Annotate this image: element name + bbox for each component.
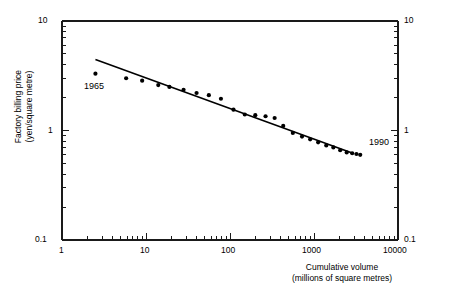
- data-point: [167, 85, 171, 89]
- y-tick-label-1: 1: [48, 125, 53, 135]
- annotation-1965: 1965: [84, 81, 104, 91]
- y-right-tick-label-0.1: 0.1: [404, 234, 416, 244]
- y-tick-label-0.1: 0.1: [35, 234, 47, 244]
- x-axis-ticks: [62, 233, 398, 240]
- data-point: [231, 108, 235, 112]
- data-point: [350, 151, 354, 155]
- data-point: [243, 112, 247, 116]
- chart-plot-area: [0, 0, 464, 305]
- axis-lines: [62, 21, 398, 240]
- x-tick-label-10000: 10000: [383, 245, 407, 255]
- data-point: [263, 114, 267, 118]
- data-point: [308, 137, 312, 141]
- data-point: [253, 113, 257, 117]
- x-tick-label-10: 10: [140, 245, 149, 255]
- data-point: [316, 140, 320, 144]
- data-point: [273, 116, 277, 120]
- data-point: [291, 131, 295, 135]
- x-axis-title-text: Cumulative volume (millions of square me…: [292, 262, 392, 283]
- data-point: [345, 150, 349, 154]
- x-tick-label-100: 100: [221, 245, 235, 255]
- data-point: [194, 91, 198, 95]
- data-point: [181, 88, 185, 92]
- data-point: [324, 143, 328, 147]
- y-axis-left-ticks: [62, 21, 69, 240]
- trendline: [95, 60, 352, 154]
- data-point: [338, 148, 342, 152]
- experience-curve-chart: 10 1 0.1 10 1 0.1 1 10 100 1000 10000 19…: [0, 0, 464, 305]
- data-point: [156, 83, 160, 87]
- y-right-tick-label-1: 1: [404, 125, 409, 135]
- data-point: [281, 124, 285, 128]
- data-point: [140, 79, 144, 83]
- y-right-tick-label-10: 10: [404, 15, 413, 25]
- y-axis-title: Factory billing price (yen/square metre): [13, 57, 34, 157]
- data-point: [93, 72, 97, 76]
- data-point: [300, 134, 304, 138]
- x-tick-label-1000: 1000: [302, 245, 321, 255]
- y-tick-label-10: 10: [38, 15, 47, 25]
- x-axis-title: Cumulative volume (millions of square me…: [262, 262, 422, 283]
- x-tick-label-1: 1: [59, 245, 64, 255]
- data-point: [331, 145, 335, 149]
- y-axis-title-text: Factory billing price (yen/square metre): [13, 70, 34, 143]
- trendline-segment: [95, 60, 352, 154]
- data-point: [358, 153, 362, 157]
- data-points: [93, 72, 362, 157]
- data-point: [124, 76, 128, 80]
- data-point: [219, 97, 223, 101]
- data-point: [207, 93, 211, 97]
- annotation-1990: 1990: [369, 137, 389, 147]
- y-axis-right-ticks: [391, 21, 398, 240]
- data-point: [354, 152, 358, 156]
